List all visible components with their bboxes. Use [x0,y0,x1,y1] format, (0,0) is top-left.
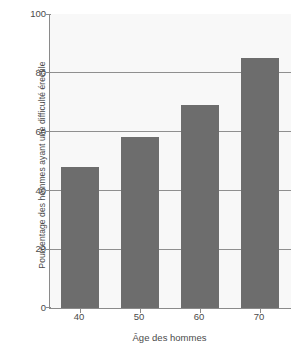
x-axis-tick-labels: 40 50 60 70 [49,311,290,327]
bar-series [50,14,291,308]
bar-40 [61,167,99,308]
plot-area [49,14,291,309]
bar-60 [181,105,219,308]
x-axis-title: Âge des hommes [49,332,290,343]
y-tick-label-80: 80 [12,68,46,78]
bar-chart: Pourcentage des hommes ayant une difficu… [0,0,305,355]
x-tick-label-60: 60 [194,311,205,322]
y-tick-label-40: 40 [12,186,46,196]
bar-70 [241,58,279,308]
x-tick-label-70: 70 [254,311,265,322]
x-tick-label-40: 40 [74,311,85,322]
y-tick-label-20: 20 [12,244,46,254]
y-tick-label-100: 100 [12,9,46,19]
y-tick-label-0: 0 [12,303,46,313]
bar-50 [121,137,159,308]
y-tick-label-60: 60 [12,127,46,137]
x-tick-label-50: 50 [134,311,145,322]
y-axis-tick-labels: 100 80 60 40 20 0 [8,0,46,355]
